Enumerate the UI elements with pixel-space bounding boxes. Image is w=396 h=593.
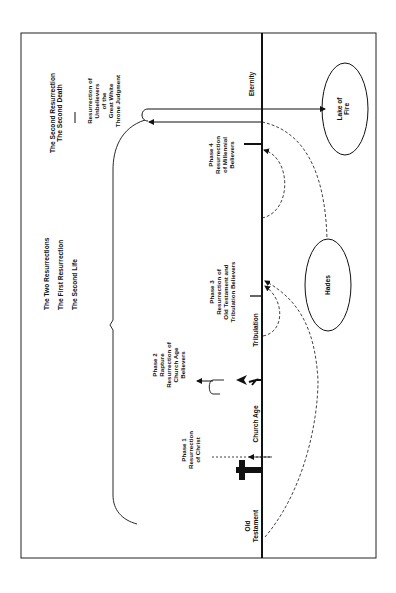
era-old-testament-1: Old xyxy=(244,521,251,532)
phase2-line-2: Rapture xyxy=(158,353,165,377)
phase4-line-4: Believers xyxy=(228,141,235,169)
phase2-line-5: Believers xyxy=(179,351,186,379)
dashed-ot-to-phase3 xyxy=(265,281,318,537)
lake-of-fire-label-2: Fire xyxy=(343,103,350,115)
era-old-testament-2: Testament xyxy=(252,509,259,542)
phase3-line-4: Tribulation Believers xyxy=(229,261,236,322)
second-life-title: The Second Life xyxy=(71,259,78,310)
dashed-hades-to-eternity xyxy=(262,122,327,239)
phase2-line-4: Church Age xyxy=(172,347,179,382)
two-resurrections-diagram: Lake of Fire Hades Eternity Tribulation … xyxy=(0,0,396,593)
unbelievers-loop xyxy=(142,109,262,121)
first-resurrection-bracket xyxy=(110,120,145,524)
rapture-arrowhead-icon xyxy=(236,375,247,385)
phase3-line-2: Resurrection of xyxy=(215,268,222,315)
dashed-tribulation-loop xyxy=(263,286,280,336)
phase4-line-3: of Millennial xyxy=(221,137,228,173)
lake-of-fire-label-1: Lake of xyxy=(336,97,343,121)
phase1-line-1: Phase 1 xyxy=(180,438,187,462)
phase3-line-3: Old Testament and xyxy=(222,264,229,319)
era-eternity: Eternity xyxy=(248,71,256,96)
dashed-millennial-loop xyxy=(262,150,285,218)
unbelievers-line-2: Unbelievers xyxy=(93,83,100,119)
rapture-u-loop xyxy=(209,380,224,394)
unbelievers-line-5: Throne Judgment xyxy=(114,75,121,127)
first-resurrection-title: The First Resurrection xyxy=(57,240,64,310)
phase3-line-1: Phase 3 xyxy=(208,280,215,304)
second-resurrection-title: The Second Resurrection xyxy=(49,73,56,153)
era-church-age: Church Age xyxy=(252,405,260,442)
phase1-line-2: Resurrection xyxy=(187,431,194,469)
rapture-marker xyxy=(249,380,262,385)
unbelievers-line-4: Great White xyxy=(107,83,114,118)
two-resurrections-title: The Two Resurrections xyxy=(43,237,50,310)
phase4-line-1: Phase 4 xyxy=(207,143,214,167)
hades-label: Hades xyxy=(324,275,331,295)
phase4-line-2: Resurrection xyxy=(214,136,221,174)
phase1-line-3: of Christ xyxy=(194,437,201,462)
second-death-title: The Second Death xyxy=(56,84,63,142)
phase2-line-1: Phase 2 xyxy=(151,353,158,377)
era-tribulation: Tribulation xyxy=(252,313,259,347)
cross-icon xyxy=(236,460,262,480)
unbelievers-line-3: of the xyxy=(100,92,107,109)
phase2-line-3: Resurrection of xyxy=(165,341,172,388)
unbelievers-line-1: Resurrection of xyxy=(86,77,93,124)
